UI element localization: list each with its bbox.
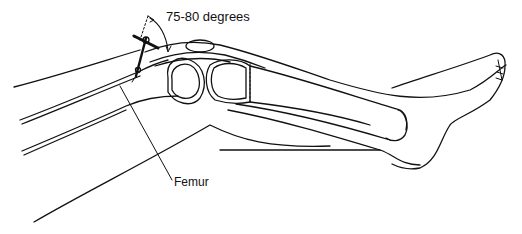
femur-label: Femur <box>174 176 209 188</box>
angle-label: 75-80 degrees <box>166 10 250 23</box>
heel-bone <box>386 110 407 141</box>
leg-line-drawing <box>0 0 522 234</box>
foot-outline <box>392 53 505 169</box>
knee-diagram: 75-80 degrees Femur <box>0 0 522 234</box>
thigh-lower-outline <box>34 125 330 222</box>
thigh-upper-outline <box>14 50 140 87</box>
patella <box>186 40 214 52</box>
